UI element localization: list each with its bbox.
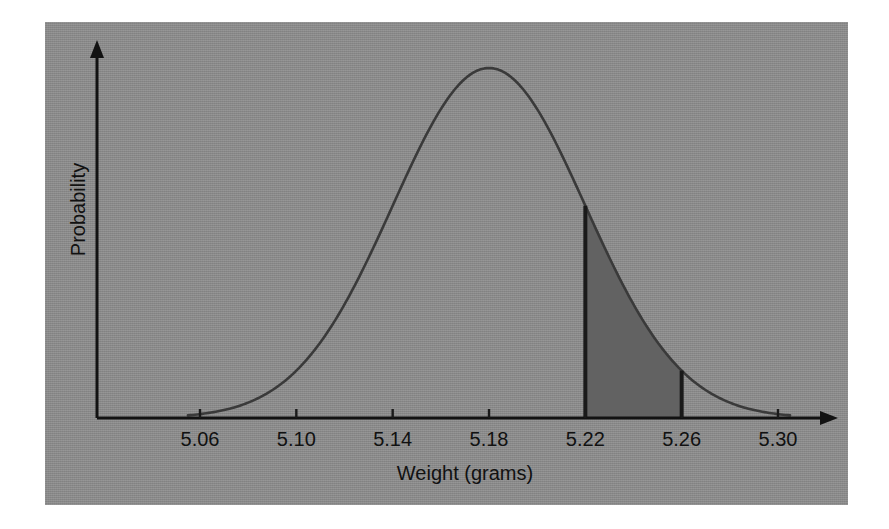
x-axis-arrowhead: [820, 411, 838, 425]
x-axis-tick-label: 5.14: [353, 428, 433, 451]
x-axis-tick-label: 5.22: [545, 428, 625, 451]
x-axis-tick-label: 5.26: [642, 428, 722, 451]
x-axis-tick-label: 5.18: [449, 428, 529, 451]
x-axis-tick-label: 5.10: [256, 428, 336, 451]
figure-root: 5.065.105.145.185.225.265.30 Weight (gra…: [0, 0, 889, 529]
x-axis-title: Weight (grams): [325, 462, 605, 485]
x-axis-tick-label: 5.06: [160, 428, 240, 451]
y-axis-title: Probability: [67, 145, 90, 275]
y-axis-arrowhead: [90, 40, 104, 58]
x-axis-tick-label: 5.30: [738, 428, 818, 451]
normal-distribution-curve: [188, 68, 790, 415]
